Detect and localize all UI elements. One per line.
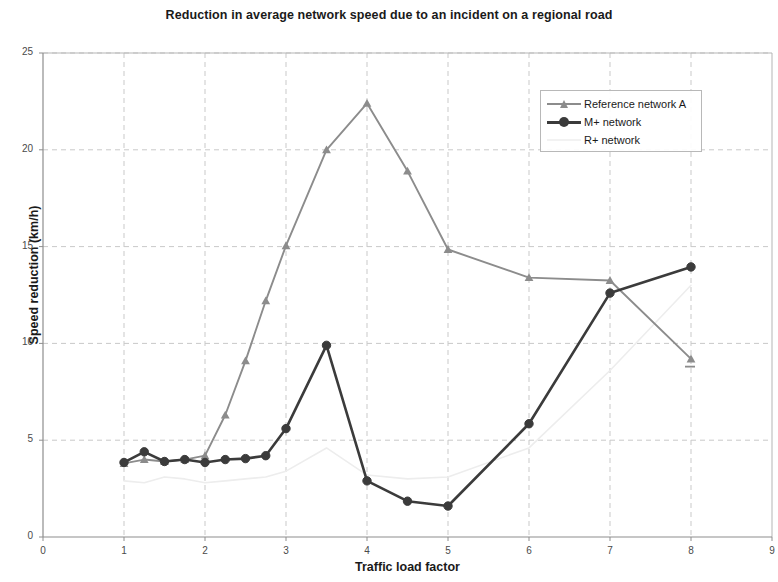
legend-label-reference-network-a: Reference network A xyxy=(584,98,686,110)
y-tick-label: 0 xyxy=(7,530,33,541)
legend-key-r-plus-network xyxy=(547,133,581,147)
legend-key-m-plus-network xyxy=(547,115,581,129)
data-point xyxy=(525,420,533,428)
data-point xyxy=(322,341,330,349)
x-tick-label: 7 xyxy=(597,545,623,556)
y-tick-label: 20 xyxy=(7,143,33,154)
data-point xyxy=(221,411,230,419)
data-point xyxy=(120,458,128,466)
legend-item-m-plus-network[interactable]: M+ network xyxy=(547,113,695,131)
chart-legend: Reference network A M+ network R+ networ… xyxy=(540,90,702,152)
data-point xyxy=(403,167,412,175)
plot-area xyxy=(0,0,778,582)
data-point xyxy=(687,263,695,271)
data-point xyxy=(181,455,189,463)
data-point xyxy=(221,455,229,463)
x-tick-label: 1 xyxy=(111,545,137,556)
data-point xyxy=(262,451,270,459)
data-point xyxy=(363,477,371,485)
legend-label-r-plus-network: R+ network xyxy=(584,134,640,146)
legend-item-reference-network-a[interactable]: Reference network A xyxy=(547,95,695,113)
data-point xyxy=(160,457,168,465)
y-tick-label: 10 xyxy=(7,336,33,347)
data-point xyxy=(363,99,372,107)
data-point xyxy=(606,289,614,297)
x-tick-label: 2 xyxy=(192,545,218,556)
chart-title: Reduction in average network speed due t… xyxy=(0,8,778,22)
data-point xyxy=(261,296,270,304)
data-point xyxy=(241,454,249,462)
y-tick-label: 5 xyxy=(7,433,33,444)
chart-container: Reduction in average network speed due t… xyxy=(0,0,778,582)
x-tick-label: 8 xyxy=(678,545,704,556)
x-axis-title: Traffic load factor xyxy=(43,560,772,574)
series-reference-network-a xyxy=(120,99,696,467)
legend-item-r-plus-network[interactable]: R+ network xyxy=(547,131,695,149)
x-tick-label: 0 xyxy=(30,545,56,556)
data-point xyxy=(241,356,250,364)
legend-label-m-plus-network: M+ network xyxy=(584,116,641,128)
y-tick-label: 15 xyxy=(7,240,33,251)
data-point xyxy=(282,241,291,249)
y-axis-title: Speed reduction (km/h) xyxy=(27,155,41,395)
x-tick-label: 6 xyxy=(516,545,542,556)
x-tick-label: 4 xyxy=(354,545,380,556)
data-point xyxy=(282,424,290,432)
x-tick-label: 3 xyxy=(273,545,299,556)
x-tick-label: 9 xyxy=(759,545,778,556)
y-tick-label: 25 xyxy=(7,46,33,57)
data-point xyxy=(140,448,148,456)
x-tick-label: 5 xyxy=(435,545,461,556)
data-point xyxy=(444,502,452,510)
data-point xyxy=(201,458,209,466)
data-point xyxy=(403,497,411,505)
series-m-network xyxy=(120,263,695,510)
circle-marker-icon xyxy=(559,117,569,127)
series-r-network xyxy=(124,285,691,482)
legend-key-reference-network-a xyxy=(547,97,581,111)
